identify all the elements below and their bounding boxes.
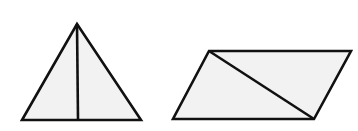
- triangle-median-line: [77, 24, 78, 120]
- diagram-canvas: [0, 0, 358, 131]
